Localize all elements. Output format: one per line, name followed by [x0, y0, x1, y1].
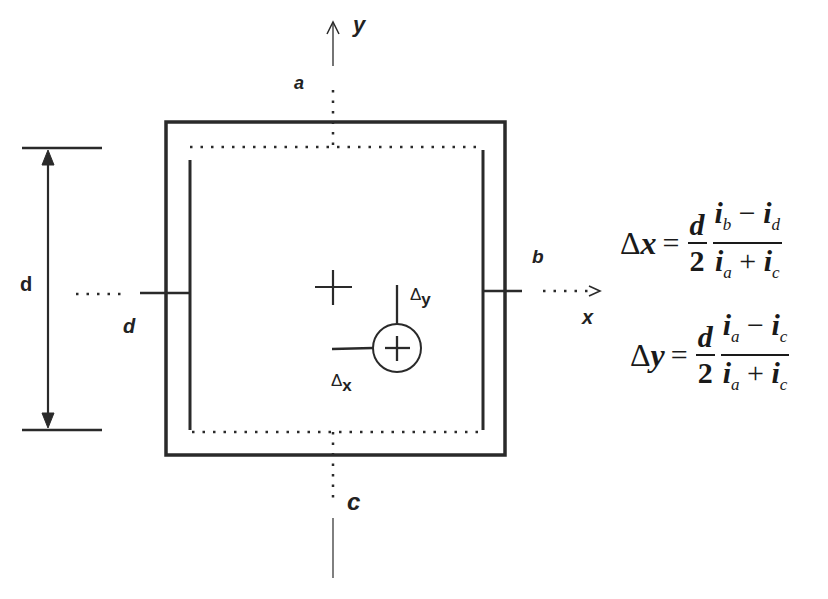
eq-dy-frac2-den: ia + ic: [721, 356, 790, 402]
eq-dx-delta: Δ: [620, 225, 641, 261]
eq-dx-frac-half: d 2: [688, 208, 707, 278]
eq-dy-var: y: [651, 337, 665, 373]
eq-dy-frac-currents: ia − ic ia + ic: [721, 308, 790, 402]
y-axis-label: y: [353, 12, 365, 38]
eq-dx-frac1-num: d: [690, 208, 705, 241]
outer-frame: [166, 122, 505, 455]
x-axis-arrow-icon: [589, 286, 600, 296]
dimension-arrow-up-icon: [42, 150, 54, 165]
eq-dx-frac2-den: ia + ic: [713, 244, 782, 290]
equation-delta-y: Δy = d 2 ia − ic ia + ic: [630, 308, 789, 402]
dx-offset-line: [332, 348, 373, 349]
eq-dy-frac1-den: 2: [696, 356, 715, 390]
eq-dx-equals: =: [663, 226, 680, 260]
x-axis-label: x: [582, 306, 593, 329]
eq-dy-lhs: Δy: [630, 337, 665, 374]
eq-dy-equals: =: [671, 338, 688, 372]
delta-x-sub: x: [342, 376, 351, 395]
delta-y-sub: y: [421, 290, 430, 309]
eq-dx-var: x: [641, 225, 657, 261]
equation-delta-x: Δx = d 2 ib − id ia + ic: [620, 196, 782, 290]
electrode-d-label: d: [123, 315, 135, 338]
dimension-arrow-down-icon: [42, 413, 54, 428]
delta-x-label: Δx: [331, 371, 352, 391]
eq-dx-lhs: Δx: [620, 225, 657, 262]
eq-dy-frac1-num: d: [698, 320, 713, 353]
eq-dx-frac-currents: ib − id ia + ic: [713, 196, 783, 290]
delta-x-symbol: Δ: [331, 371, 342, 390]
center-crosshair-icon: [315, 270, 352, 305]
electrode-a-label: a: [294, 73, 304, 94]
eq-dx-frac1-den: 2: [688, 244, 707, 278]
eq-dy-frac2-num: ia − ic: [721, 308, 790, 354]
delta-y-symbol: Δ: [410, 285, 421, 304]
eq-dx-frac2-num: ib − id: [713, 196, 783, 242]
electrode-b-label: b: [532, 246, 544, 268]
eq-dy-frac-half: d 2: [696, 320, 715, 390]
electrode-c-label: c: [347, 488, 360, 516]
dimension-d: [22, 148, 102, 430]
eq-dy-delta: Δ: [630, 337, 651, 373]
delta-y-label: Δy: [410, 285, 431, 305]
dimension-d-label: d: [20, 273, 32, 296]
beam-spot-icon: [332, 285, 421, 372]
